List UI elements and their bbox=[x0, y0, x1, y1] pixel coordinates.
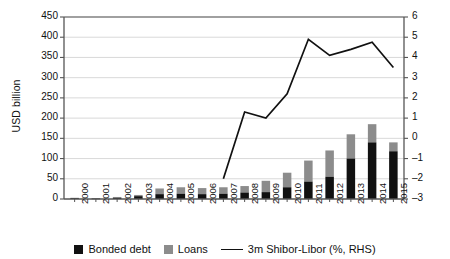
bar-segment-loans bbox=[155, 188, 164, 194]
x-axis-tick-label: 2000 bbox=[79, 183, 90, 204]
bar-segment-bonded-debt bbox=[325, 177, 334, 199]
bar-segment-bonded-debt bbox=[304, 182, 313, 199]
x-axis-tick-label: 2003 bbox=[143, 183, 154, 204]
y-axis-left-tick-label: 400 bbox=[14, 30, 58, 41]
y-axis-right-tick-label: 1 bbox=[412, 111, 418, 122]
x-axis-tick-label: 2004 bbox=[164, 183, 175, 204]
x-axis-tick-label: 2007 bbox=[228, 183, 239, 204]
y-axis-right-tick-label: 0 bbox=[412, 131, 418, 142]
legend-item-loans[interactable]: Loans bbox=[164, 243, 208, 255]
chart-plot-area bbox=[0, 0, 450, 259]
y-axis-right-tick-label: –2 bbox=[412, 172, 423, 183]
bar-segment-bonded-debt bbox=[177, 194, 186, 199]
legend-swatch-loans bbox=[164, 245, 173, 254]
x-axis-tick-label: 2013 bbox=[355, 183, 366, 204]
legend-item-bonded-debt[interactable]: Bonded debt bbox=[74, 243, 150, 255]
bar-segment-loans bbox=[113, 197, 122, 198]
bar-segment-loans bbox=[368, 124, 377, 142]
bar-segment-loans bbox=[389, 142, 398, 151]
bar-segment-bonded-debt bbox=[219, 194, 228, 199]
y-axis-left-tick-label: 450 bbox=[14, 10, 58, 21]
bar-segment-bonded-debt bbox=[283, 187, 292, 199]
bar-segment-bonded-debt bbox=[155, 194, 164, 199]
bar-segment-bonded-debt bbox=[262, 192, 271, 199]
y-axis-left-tick-label: 250 bbox=[14, 91, 58, 102]
x-axis-tick-label: 2012 bbox=[334, 183, 345, 204]
x-axis-tick-label: 2006 bbox=[207, 183, 218, 204]
x-axis-tick-label: 2008 bbox=[249, 183, 260, 204]
y-axis-right-tick-label: 4 bbox=[412, 50, 418, 61]
y-axis-left-tick-label: 0 bbox=[14, 192, 58, 203]
y-axis-right-tick-label: 3 bbox=[412, 71, 418, 82]
x-axis-tick-label: 2011 bbox=[313, 184, 324, 204]
bar-segment-loans bbox=[283, 173, 292, 188]
y-axis-left-tick-label: 150 bbox=[14, 131, 58, 142]
y-axis-title: USD billion bbox=[10, 46, 22, 166]
y-axis-right-tick-label: 6 bbox=[412, 10, 418, 21]
x-axis-tick-label: 2002 bbox=[122, 183, 133, 204]
bar-segment-bonded-debt bbox=[389, 151, 398, 199]
y-axis-left-tick-label: 350 bbox=[14, 50, 58, 61]
bar-segment-loans bbox=[219, 187, 228, 193]
x-axis-tick-label: 2001 bbox=[100, 183, 111, 204]
bar-segment-loans bbox=[198, 188, 207, 194]
x-axis-tick-label: 2005 bbox=[185, 183, 196, 204]
legend-label-loans: Loans bbox=[178, 243, 208, 255]
chart-container: USD billion Bonded debt Loans 3m Shibor-… bbox=[0, 0, 450, 259]
bar-segment-loans bbox=[240, 186, 249, 192]
legend-item-shibor-libor[interactable]: 3m Shibor-Libor (%, RHS) bbox=[221, 243, 376, 255]
x-axis-tick-label: 2010 bbox=[292, 183, 303, 204]
y-axis-left-tick-label: 100 bbox=[14, 152, 58, 163]
x-axis-tick-label: 2015 bbox=[398, 183, 409, 204]
bar-segment-loans bbox=[134, 195, 143, 196]
chart-legend: Bonded debt Loans 3m Shibor-Libor (%, RH… bbox=[0, 243, 450, 255]
y-axis-right-tick-label: –1 bbox=[412, 152, 423, 163]
bar-segment-bonded-debt bbox=[240, 193, 249, 199]
bar-segment-bonded-debt bbox=[368, 142, 377, 199]
bar-segment-loans bbox=[347, 134, 356, 158]
y-axis-right-tick-label: –3 bbox=[412, 192, 423, 203]
bar-segment-loans bbox=[262, 181, 271, 192]
bar-segment-loans bbox=[304, 161, 313, 182]
y-axis-right-tick-label: 5 bbox=[412, 30, 418, 41]
legend-label-bonded-debt: Bonded debt bbox=[88, 243, 150, 255]
x-axis-tick-label: 2009 bbox=[270, 183, 281, 204]
y-axis-left-tick-label: 50 bbox=[14, 172, 58, 183]
bar-segment-bonded-debt bbox=[198, 194, 207, 199]
y-axis-left-tick-label: 300 bbox=[14, 71, 58, 82]
x-axis-tick-label: 2014 bbox=[377, 183, 388, 204]
y-axis-right-tick-label: 2 bbox=[412, 91, 418, 102]
bar-segment-bonded-debt bbox=[347, 159, 356, 199]
bar-segment-loans bbox=[177, 187, 186, 193]
bar-segment-loans bbox=[325, 150, 334, 176]
legend-swatch-bonded-debt bbox=[74, 245, 83, 254]
legend-swatch-shibor-libor bbox=[221, 249, 243, 250]
legend-label-shibor-libor: 3m Shibor-Libor (%, RHS) bbox=[248, 243, 376, 255]
y-axis-left-tick-label: 200 bbox=[14, 111, 58, 122]
